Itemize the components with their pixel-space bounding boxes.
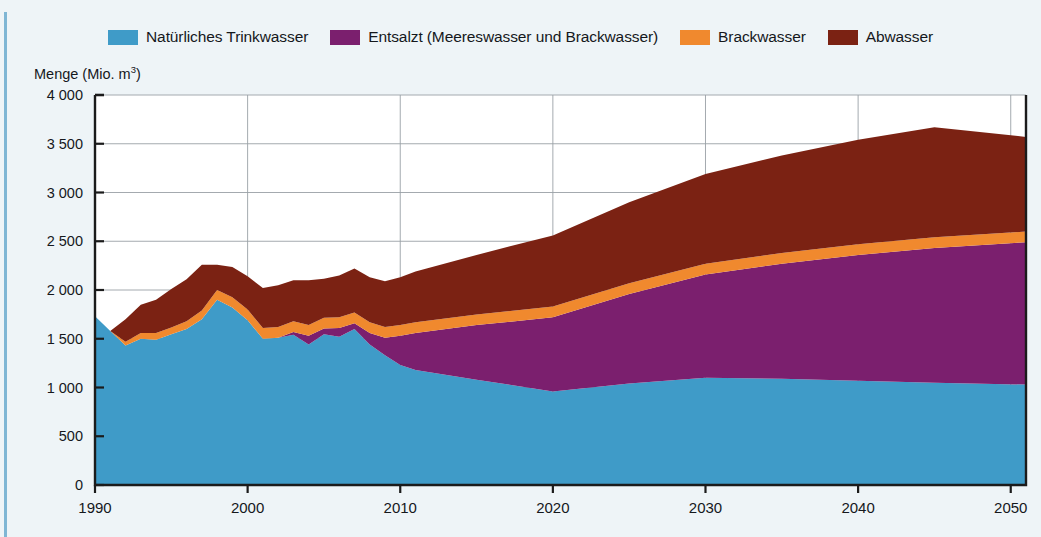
y-tick-label-group: 4 0003 5003 0002 5002 0001 5001 0005000 (47, 87, 83, 493)
y-tick-label-2000: 2 000 (47, 282, 83, 298)
stacked-area-chart: 4 0003 5003 0002 5002 0001 5001 0005000 … (0, 0, 1041, 537)
x-tick-label-group: 1990200020102020203020402050 (78, 499, 1027, 516)
x-tick-label-1990: 1990 (78, 499, 111, 516)
x-tick-label-2000: 2000 (231, 499, 264, 516)
y-tick-label-500: 500 (59, 428, 83, 444)
x-tick-label-2030: 2030 (689, 499, 722, 516)
chart-plot-area: 4 0003 5003 0002 5002 0001 5001 0005000 … (0, 0, 1041, 537)
y-tick-label-1000: 1 000 (47, 380, 83, 396)
y-tick-label-4000: 4 000 (47, 87, 83, 103)
x-tick-label-2020: 2020 (536, 499, 569, 516)
y-tick-label-3000: 3 000 (47, 185, 83, 201)
x-tick-label-2050: 2050 (994, 499, 1027, 516)
x-tick-label-2010: 2010 (384, 499, 417, 516)
y-tick-label-0: 0 (75, 477, 83, 493)
y-tick-label-2500: 2 500 (47, 233, 83, 249)
y-tick-label-3500: 3 500 (47, 136, 83, 152)
x-tick-label-2040: 2040 (841, 499, 874, 516)
chart-page: Natürliches Trinkwasser Entsalzt (Meeres… (0, 0, 1041, 537)
y-tick-label-1500: 1 500 (47, 331, 83, 347)
